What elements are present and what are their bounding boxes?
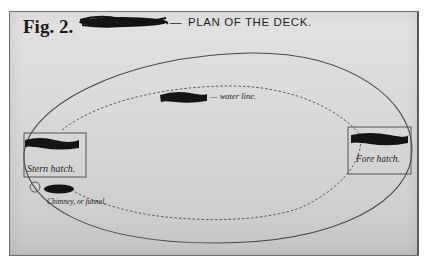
title-dash: — (170, 16, 182, 28)
deck-plan-diagram: Fig. 2. — PLAN OF THE DECK. — water line… (0, 0, 426, 263)
fore-hatch-label: Fore hatch. (355, 154, 400, 164)
stern-hatch-label: Stern hatch. (27, 163, 75, 174)
water-line-redaction (160, 92, 207, 103)
figure-label: Fig. 2. (23, 16, 73, 37)
chimney-redaction (44, 185, 74, 194)
figure-title: PLAN OF THE DECK. (188, 16, 312, 28)
water-line (62, 86, 361, 220)
fore-hatch-redaction (351, 133, 408, 145)
chimney-label: Chimney, or funnel. (47, 197, 106, 206)
chimney-circle (30, 182, 40, 192)
title-redaction (79, 17, 167, 27)
water-line-label: — water line. (209, 91, 256, 101)
stern-hatch-redaction (25, 138, 79, 150)
hull-outline (24, 53, 412, 243)
